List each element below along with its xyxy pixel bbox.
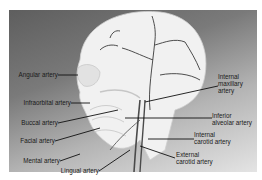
label-internal-carotid-artery: Internal carotid artery: [194, 131, 231, 145]
label-buccal-artery: Buccal artery: [10, 119, 58, 126]
label-mental-artery: Mental artery: [10, 157, 60, 164]
label-angular-artery: Angular artery: [10, 71, 58, 78]
label-external-carotid-artery: External carotid artery: [176, 151, 213, 165]
label-inferior-alveolar-artery: Inferior alveolar artery: [212, 112, 252, 126]
label-lingual-artery: Lingual artery: [40, 167, 99, 174]
label-facial-artery: Facial artery: [10, 137, 55, 144]
skull-shape: [77, 11, 206, 160]
label-internal-maxillary-artery: Internal maxillary artery: [218, 73, 243, 94]
label-infraorbital-artery: Infraorbital artery: [10, 99, 71, 106]
